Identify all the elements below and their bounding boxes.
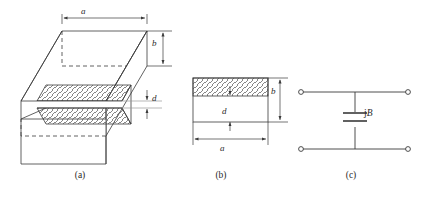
iris-plate-upper	[37, 85, 131, 101]
dimension-b-rect	[268, 78, 288, 122]
dimension-b-side	[147, 31, 172, 66]
iris-plate-lower	[37, 108, 131, 124]
panel-c-equivalent-circuit	[299, 90, 411, 152]
panel-caption-a: (a)	[70, 170, 90, 180]
dimension-a-rect	[193, 122, 268, 145]
figure-capacitive-waveguide-iris: a b d b d a jB (a) (b) (c)	[0, 0, 425, 201]
terminal-bottom-right	[406, 147, 411, 152]
dimension-label-d-aperture: d	[222, 106, 227, 116]
iris-gap-region	[37, 101, 122, 108]
terminal-top-left	[299, 90, 304, 95]
panel-caption-c: (c)	[341, 170, 361, 180]
iris-band-hatched	[193, 78, 268, 96]
panel-a-waveguide-3d	[21, 14, 172, 164]
dimension-label-b-rect: b	[271, 86, 276, 96]
terminal-top-right	[406, 90, 411, 95]
dimension-label-b-side: b	[152, 38, 157, 48]
susceptance-label-symbol: B	[367, 108, 373, 118]
dimension-label-a-rect: a	[220, 143, 225, 153]
dimension-label-a-top: a	[81, 6, 86, 16]
panel-caption-b: (b)	[211, 170, 231, 180]
dimension-label-d-gap: d	[152, 93, 157, 103]
terminal-bottom-left	[299, 147, 304, 152]
susceptance-label: jB	[364, 108, 372, 118]
dimension-a-top	[62, 14, 147, 24]
